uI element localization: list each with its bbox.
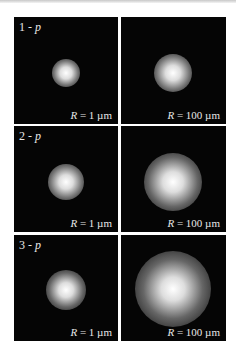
radius-label: R = 100 µm — [167, 109, 220, 121]
panel-2p-1um: 2 - p R = 1 µm — [14, 126, 118, 232]
top-border — [0, 0, 236, 3]
focal-spot — [52, 59, 80, 87]
radius-label: R = 1 µm — [70, 109, 112, 121]
radius-label: R = 1 µm — [70, 326, 112, 338]
row-label: 1 - p — [19, 20, 41, 35]
panel-1p-1um: 1 - p R = 1 µm — [14, 17, 118, 124]
panel-2p-100um: R = 100 µm — [121, 126, 226, 232]
radius-label: R = 100 µm — [167, 326, 220, 338]
row-label: 3 - p — [19, 238, 41, 253]
radius-label: R = 100 µm — [167, 217, 220, 229]
panel-1p-100um: R = 100 µm — [121, 17, 226, 124]
row-label: 2 - p — [19, 129, 41, 144]
focal-spot — [144, 153, 202, 211]
radius-label: R = 1 µm — [70, 217, 112, 229]
focal-spot — [48, 164, 84, 200]
focal-spot — [154, 54, 192, 92]
focal-spot — [135, 251, 211, 327]
panel-3p-100um: R = 100 µm — [121, 235, 226, 341]
focal-spot — [46, 270, 86, 310]
panel-3p-1um: 3 - p R = 1 µm — [14, 235, 118, 341]
